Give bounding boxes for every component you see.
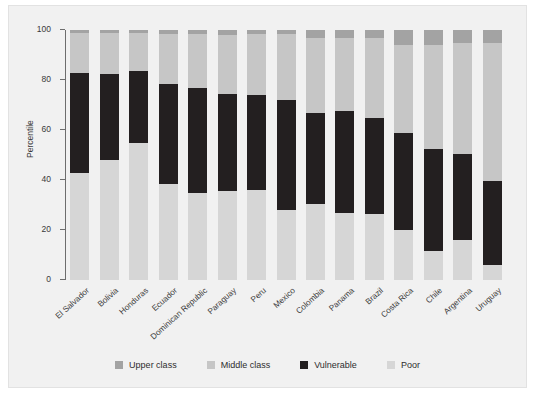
bar-segment-upper-class (306, 30, 325, 38)
x-tick-label: El Salvador (54, 286, 91, 321)
x-tick-label: Uruguay (474, 286, 503, 313)
bar-segment-poor (247, 190, 266, 280)
x-tick-label-wrap: Uruguay (497, 286, 498, 287)
x-tick-label: Ecuador (150, 286, 179, 313)
x-tick-label-wrap: Panama (350, 286, 351, 287)
bar-segment-poor (277, 210, 296, 280)
x-tick-label-wrap: Chile (438, 286, 439, 287)
chart-figure: Percentile 020406080100 El SalvadorBoliv… (8, 5, 527, 388)
legend-swatch-icon (300, 361, 308, 369)
stacked-bar[interactable] (159, 30, 178, 280)
bar-segment-vulnerable (306, 113, 325, 204)
x-tick-label: Chile (424, 286, 444, 305)
bar-segment-vulnerable (424, 149, 443, 252)
x-tick-label-wrap: Mexico (291, 286, 292, 287)
bar-segment-middle-class (277, 34, 296, 100)
x-tick-label-wrap: El Salvador (85, 286, 86, 287)
bar-segment-middle-class (159, 34, 178, 84)
legend-swatch-icon (115, 361, 123, 369)
bar-segment-poor (483, 265, 502, 280)
y-tick-label: 60 (42, 124, 51, 134)
x-tick-label: Brazil (364, 286, 385, 306)
bar-segment-upper-class (159, 30, 178, 34)
y-tick-label: 40 (42, 174, 51, 184)
bar-segment-middle-class (306, 38, 325, 113)
legend-label: Upper class (129, 360, 177, 370)
y-axis-label: Percentile (25, 120, 35, 158)
bar-segment-poor (188, 193, 207, 281)
x-tick-label: Mexico (272, 286, 297, 310)
bar-segment-upper-class (218, 30, 237, 35)
bar-segment-upper-class (70, 30, 89, 33)
bar-segment-vulnerable (159, 84, 178, 184)
legend-label: Poor (401, 360, 420, 370)
bar-segment-middle-class (218, 35, 237, 94)
bar-segment-middle-class (483, 43, 502, 182)
y-tick: 40 (60, 179, 65, 180)
bar-segment-vulnerable (218, 94, 237, 192)
stacked-bar[interactable] (129, 30, 148, 280)
stacked-bar[interactable] (188, 30, 207, 280)
y-tick-label: 80 (42, 74, 51, 84)
legend-item[interactable]: Poor (387, 360, 420, 370)
stacked-bar[interactable] (453, 30, 472, 280)
y-tick: 0 (60, 279, 65, 280)
stacked-bar[interactable] (424, 30, 443, 280)
legend-swatch-icon (387, 361, 395, 369)
bar-segment-upper-class (424, 30, 443, 45)
bar-segment-upper-class (188, 30, 207, 34)
stacked-bar[interactable] (70, 30, 89, 280)
x-tick-label: Peru (249, 286, 268, 304)
bar-segment-poor (453, 240, 472, 280)
bar-segment-upper-class (335, 30, 354, 38)
bar-segment-poor (218, 191, 237, 280)
x-tick-label: Argentina (442, 286, 474, 316)
legend-item[interactable]: Upper class (115, 360, 177, 370)
bar-segment-middle-class (188, 34, 207, 88)
bar-segment-upper-class (100, 30, 119, 33)
bar-segment-poor (129, 143, 148, 281)
stacked-bar[interactable] (394, 30, 413, 280)
bar-segment-upper-class (483, 30, 502, 43)
bar-segment-vulnerable (100, 74, 119, 160)
stacked-bar[interactable] (277, 30, 296, 280)
legend-label: Middle class (221, 360, 271, 370)
legend-item[interactable]: Middle class (207, 360, 271, 370)
stacked-bar[interactable] (100, 30, 119, 280)
bar-segment-vulnerable (129, 71, 148, 142)
x-tick-label-wrap: Dominican Republic (203, 286, 204, 287)
y-tick: 60 (60, 129, 65, 130)
stacked-bar[interactable] (365, 30, 384, 280)
bar-segment-vulnerable (277, 100, 296, 210)
legend-item[interactable]: Vulnerable (300, 360, 357, 370)
x-tick-label: Paraguay (206, 286, 238, 316)
bar-segment-vulnerable (335, 111, 354, 212)
stacked-bar[interactable] (483, 30, 502, 280)
bar-segment-upper-class (247, 30, 266, 34)
x-tick-label-wrap: Ecuador (173, 286, 174, 287)
stacked-bar[interactable] (218, 30, 237, 280)
y-tick-label: 20 (42, 224, 51, 234)
bar-segment-poor (335, 213, 354, 281)
bar-segment-poor (159, 184, 178, 280)
bar-segment-vulnerable (70, 73, 89, 173)
x-tick-label-wrap: Costa Rica (409, 286, 410, 287)
x-tick-label-wrap: Peru (262, 286, 263, 287)
y-axis-line (65, 30, 66, 280)
bar-segment-middle-class (453, 43, 472, 154)
stacked-bar[interactable] (335, 30, 354, 280)
y-tick-label: 0 (46, 274, 51, 284)
x-tick-label-wrap: Brazil (379, 286, 380, 287)
bar-segment-middle-class (70, 33, 89, 73)
x-tick-label: Bolivia (96, 286, 120, 309)
bar-segment-upper-class (365, 30, 384, 38)
plot-area: 020406080100 El SalvadorBoliviaHondurasE… (65, 30, 507, 280)
y-tick: 20 (60, 229, 65, 230)
x-tick-label-wrap: Argentina (468, 286, 469, 287)
x-tick-label: Colombia (295, 286, 327, 316)
stacked-bar[interactable] (306, 30, 325, 280)
legend-label: Vulnerable (314, 360, 357, 370)
bar-segment-vulnerable (453, 154, 472, 240)
stacked-bar[interactable] (247, 30, 266, 280)
bar-segment-middle-class (100, 33, 119, 74)
